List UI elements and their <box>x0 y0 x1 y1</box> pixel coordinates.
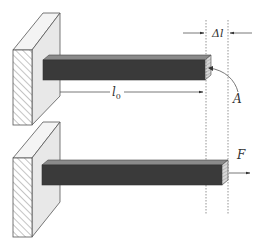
elongation-diagram: l0 Δl A F <box>0 0 266 246</box>
force-label: F <box>236 148 246 162</box>
delta-l-label: Δl <box>211 27 224 40</box>
area-label: A <box>232 92 242 106</box>
bottom-bar <box>42 160 228 185</box>
top-bar <box>43 55 211 80</box>
reference-lines <box>206 20 228 215</box>
area-callout: A <box>208 66 242 106</box>
l0-label: l0 <box>112 85 121 101</box>
l0-dimension: l0 <box>60 85 203 101</box>
delta-l-dimension: Δl <box>183 27 252 40</box>
force-arrow: F <box>229 148 250 173</box>
